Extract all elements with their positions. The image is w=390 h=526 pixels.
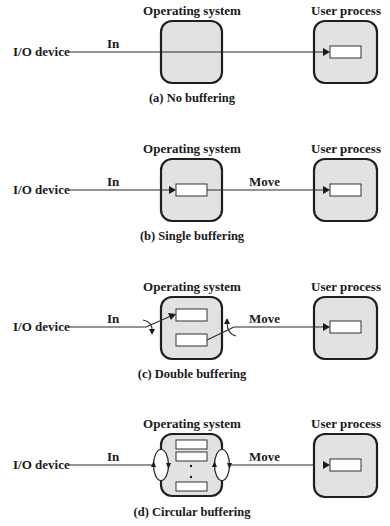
io-device-label: I/O device	[13, 44, 70, 59]
user-buffer	[330, 459, 361, 471]
io-buffering-diagram: Operating system User process I/O device…	[0, 0, 390, 526]
os-buffer-1	[176, 440, 207, 449]
move-arrow-line	[207, 327, 324, 340]
os-label: Operating system	[143, 141, 241, 156]
user-buffer	[330, 46, 361, 58]
user-buffer	[330, 184, 361, 196]
switch-arrow	[227, 322, 236, 336]
user-buffer	[330, 321, 361, 333]
move-label: Move	[249, 174, 280, 189]
in-label: In	[107, 174, 120, 189]
in-label: In	[107, 449, 120, 464]
os-box	[161, 297, 222, 359]
ellipsis-dot	[190, 476, 192, 478]
os-buffer-2	[176, 334, 207, 346]
os-buffer	[176, 184, 207, 196]
move-label: Move	[249, 449, 280, 464]
os-buffer-2	[176, 452, 207, 461]
panel-no-buffering: Operating system User process I/O device…	[13, 3, 381, 105]
os-buffer-1	[176, 309, 207, 321]
down-arrow-icon	[149, 329, 155, 335]
caption: (b) Single buffering	[140, 229, 245, 243]
os-label: Operating system	[143, 3, 241, 18]
panel-double-buffering: Operating system User process I/O device…	[13, 279, 381, 381]
os-buffer-n	[176, 482, 207, 491]
move-label: Move	[249, 311, 280, 326]
user-process-label: User process	[311, 279, 381, 294]
os-label: Operating system	[143, 416, 241, 431]
circular-loop-left	[154, 450, 169, 481]
circular-loop-right	[215, 450, 230, 481]
io-device-label: I/O device	[13, 182, 70, 197]
in-arrow-line	[68, 316, 171, 327]
user-process-label: User process	[311, 141, 381, 156]
caption: (a) No buffering	[149, 91, 236, 105]
in-label: In	[107, 36, 120, 51]
os-label: Operating system	[143, 279, 241, 294]
caption: (c) Double buffering	[138, 367, 247, 381]
user-process-label: User process	[311, 416, 381, 431]
in-label: In	[107, 311, 120, 326]
ellipsis-dot	[190, 465, 192, 467]
user-process-label: User process	[311, 3, 381, 18]
panel-single-buffering: Operating system User process I/O device…	[13, 141, 381, 243]
up-arrow-icon	[224, 318, 230, 324]
io-device-label: I/O device	[13, 319, 70, 334]
caption: (d) Circular buffering	[134, 505, 252, 519]
panel-circular-buffering: Operating system User process I/O device…	[13, 416, 381, 519]
io-device-label: I/O device	[13, 457, 70, 472]
